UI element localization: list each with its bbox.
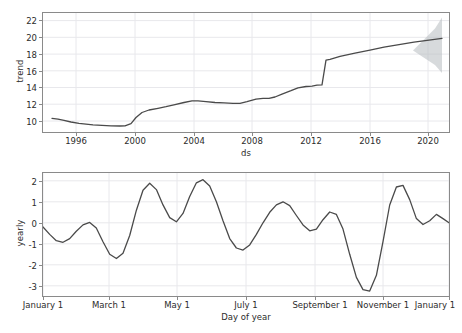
trend-line — [52, 38, 442, 126]
trend-plot-canvas — [43, 13, 449, 132]
trend-xtick-2004: 2004 — [174, 136, 214, 146]
trend-xtick-1996: 1996 — [56, 136, 96, 146]
yearly-ytick-neg1: -1 — [13, 240, 37, 250]
trend-xtick-2020: 2020 — [408, 136, 448, 146]
trend-xtick-mark — [428, 133, 429, 136]
trend-ytick-mark — [39, 104, 42, 105]
trend-panel: trend 22 20 18 16 14 12 10 1996 2000 200… — [0, 0, 462, 168]
trend-xtick-mark — [370, 133, 371, 136]
trend-ytick-mark — [39, 87, 42, 88]
trend-xtick-2016: 2016 — [350, 136, 390, 146]
trend-ytick-20: 20 — [16, 33, 37, 43]
yearly-xtick-mark — [315, 297, 316, 300]
yearly-xtick-mark — [246, 297, 247, 300]
yearly-ytick-mark — [39, 265, 42, 266]
trend-xtick-mark — [194, 133, 195, 136]
yearly-xtick-mark — [43, 297, 44, 300]
trend-gridlines-vertical — [76, 13, 428, 132]
trend-xtick-2000: 2000 — [115, 136, 155, 146]
yearly-xtick-may-1: May 1 — [147, 300, 207, 310]
trend-xtick-2008: 2008 — [232, 136, 272, 146]
trend-xtick-2012: 2012 — [291, 136, 331, 146]
yearly-xtick-mark — [177, 297, 178, 300]
yearly-ytick-mark — [39, 202, 42, 203]
trend-xtick-mark — [135, 133, 136, 136]
yearly-y-axis-label: yearly — [15, 209, 25, 257]
yearly-gridlines-vertical — [43, 173, 449, 296]
trend-xtick-mark — [311, 133, 312, 136]
trend-gridlines-horizontal — [43, 21, 449, 121]
yearly-ytick-neg2: -2 — [13, 261, 37, 271]
trend-ytick-16: 16 — [16, 67, 37, 77]
trend-ytick-14: 14 — [16, 83, 37, 93]
yearly-ytick-mark — [39, 181, 42, 182]
trend-xtick-mark — [76, 133, 77, 136]
prophet-components-figure: trend 22 20 18 16 14 12 10 1996 2000 200… — [0, 0, 462, 333]
trend-x-axis-label: ds — [206, 148, 286, 158]
yearly-plot-canvas — [43, 173, 449, 296]
yearly-xtick-mark — [109, 297, 110, 300]
yearly-ytick-1: 1 — [16, 198, 37, 208]
yearly-ytick-mark — [39, 286, 42, 287]
yearly-ytick-2: 2 — [16, 177, 37, 187]
trend-ytick-mark — [39, 20, 42, 21]
yearly-x-axis-label: Day of year — [206, 312, 286, 322]
trend-ytick-10: 10 — [16, 117, 37, 127]
yearly-ytick-mark — [39, 244, 42, 245]
yearly-ytick-neg3: -3 — [13, 282, 37, 292]
trend-ytick-18: 18 — [16, 50, 37, 60]
yearly-panel: yearly 2 1 0 -1 -2 -3 January 1 March 1 … — [0, 165, 462, 333]
trend-ytick-12: 12 — [16, 100, 37, 110]
yearly-xtick-mark — [449, 297, 450, 300]
trend-ytick-22: 22 — [16, 16, 37, 26]
trend-ytick-mark — [39, 54, 42, 55]
yearly-ytick-0: 0 — [16, 219, 37, 229]
yearly-ytick-mark — [39, 223, 42, 224]
yearly-xtick-july-1: July 1 — [216, 300, 276, 310]
yearly-xtick-mark — [383, 297, 384, 300]
trend-xtick-mark — [252, 133, 253, 136]
trend-ytick-mark — [39, 37, 42, 38]
trend-ytick-mark — [39, 71, 42, 72]
yearly-xtick-january-1-end: January 1 — [405, 300, 462, 310]
yearly-xtick-january-1: January 1 — [13, 300, 73, 310]
yearly-xtick-march-1: March 1 — [79, 300, 139, 310]
trend-ytick-mark — [39, 121, 42, 122]
